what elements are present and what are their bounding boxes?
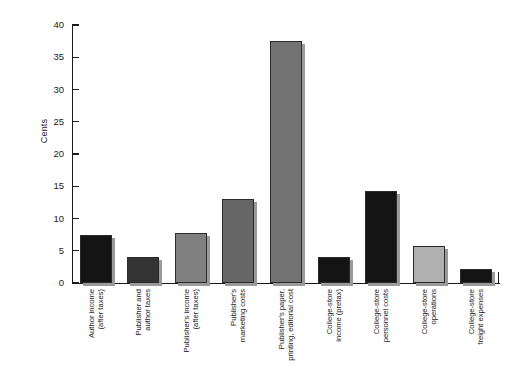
x-axis-tick-label-line: author taxes [144,289,153,387]
x-axis-tick-label: Author income(after taxes) [87,289,111,387]
y-axis-tick-label-wrap: 20 [38,149,64,159]
x-axis-tick-label-line: marketing costs [239,289,248,387]
plot-area [72,25,500,283]
bar-rect [318,257,350,283]
y-axis-tick-label-wrap: 35 [38,52,64,62]
bar-rect [365,191,397,283]
bar [365,191,397,283]
x-axis-tick-label: Publisher andauthor taxes [134,289,158,387]
bar-rect [175,233,207,283]
x-axis-tick-label-line: income (pretax) [334,289,343,387]
x-axis-tick-label: College-storeoperations [420,289,444,387]
y-axis-tick-label: 10 [38,214,64,224]
x-axis-tick-label-line: Publisher and [134,289,143,387]
bar [318,257,350,283]
bar-rect [270,41,302,283]
x-axis-tick-label-line: Publisher's paper, [277,289,286,387]
x-axis-tick-label: Publisher's income(after taxes) [182,289,206,387]
x-axis-tick-label-line: College-store [325,289,334,387]
y-axis-tick-label-wrap: 0 [38,278,64,288]
y-axis-tick-label: 35 [38,52,64,62]
x-axis-tick-label-line: personnel costs [382,289,391,387]
x-axis-tick-label-line: College-store [372,289,381,387]
bar-chart: Cents 0510152025303540 Author income(aft… [0,0,520,387]
bar-rect [80,235,112,283]
y-axis-tick-label-wrap: 25 [38,117,64,127]
bar-rect [460,269,492,283]
x-axis-tick-label: Publisher'smarketing costs [229,289,253,387]
bar [413,246,445,283]
bar [460,269,492,283]
x-axis-tick-label-line: Author income [87,289,96,387]
bar [175,233,207,283]
y-axis-tick-label-wrap: 40 [38,20,64,30]
x-axis-tick-label: College-storepersonnel costs [372,289,396,387]
y-axis-tick-label: 5 [38,246,64,256]
x-axis-tick-label: College-storefreight expenses [467,289,491,387]
x-axis-tick-label-line: (after taxes) [96,289,105,387]
x-axis-tick-label-line: freight expenses [477,289,486,387]
x-axis-tick-label-line: College-store [467,289,476,387]
y-axis-tick-label-wrap: 10 [38,214,64,224]
y-axis-tick-label: 20 [38,149,64,159]
y-axis-tick-label: 15 [38,181,64,191]
x-axis-tick-label: College-storeincome (pretax) [325,289,349,387]
x-axis-tick-label-line: Publisher's income [182,289,191,387]
y-axis-tick-label: 40 [38,20,64,30]
y-axis-tick-label: 25 [38,117,64,127]
y-axis-tick-label: 30 [38,85,64,95]
bar-rect [222,199,254,283]
bar [270,41,302,283]
bar-rect [413,246,445,283]
y-axis-tick-label: 0 [38,278,64,288]
x-axis-tick-label-line: (after taxes) [191,289,200,387]
bar-rect [127,257,159,283]
y-axis-tick-label-wrap: 5 [38,246,64,256]
x-axis-tick-label-line: printing, editorial cost [286,289,295,387]
x-axis-tick-label-line: College-store [420,289,429,387]
x-axis-tick-label-line: operations [429,289,438,387]
y-axis-tick-label-wrap: 30 [38,85,64,95]
y-axis-tick-label-wrap: 15 [38,181,64,191]
bar [222,199,254,283]
bar [127,257,159,283]
bar [80,235,112,283]
x-axis-tick-label: Publisher's paper,printing, editorial co… [277,289,301,387]
